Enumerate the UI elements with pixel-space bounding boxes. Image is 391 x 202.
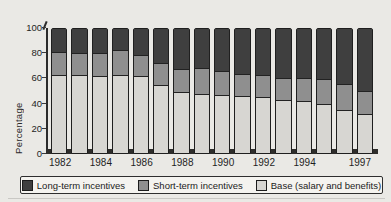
bar-1994-segment-1 — [297, 79, 311, 103]
x-tick-label-1991 — [238, 157, 249, 168]
x-tick-label-1996 — [334, 157, 345, 168]
bar-1984-segment-0 — [93, 77, 107, 153]
y-tick-label-100: 100 — [20, 23, 42, 33]
x-tick-label-1984: 1984 — [90, 157, 112, 168]
bar-1991-segment-0 — [235, 97, 249, 153]
x-tick-label-1995 — [320, 157, 331, 168]
x-tick-label-1983 — [75, 157, 86, 168]
bar-1986-segment-0 — [134, 77, 148, 153]
bar-1985-segment-2 — [113, 29, 127, 51]
bar-1982-segment-0 — [52, 76, 66, 153]
bar-1991 — [234, 28, 250, 154]
x-tick-label-1997: 1997 — [349, 157, 371, 168]
bar-1989 — [194, 28, 210, 154]
legend-label-long-term: Long-term incentives — [37, 180, 125, 191]
bar-1987-segment-1 — [154, 64, 168, 86]
x-tick-label-1982: 1982 — [49, 157, 71, 168]
bar-1988-segment-1 — [174, 70, 188, 94]
y-tick-label-20: 20 — [20, 124, 42, 134]
bar-1985 — [112, 28, 128, 154]
scan-artifact-line — [8, 198, 385, 199]
bar-1993-segment-1 — [276, 79, 290, 101]
bar-1990-segment-2 — [215, 29, 229, 72]
bar-1985-segment-0 — [113, 76, 127, 153]
bar-1984-segment-1 — [93, 54, 107, 78]
long-term-swatch-icon — [22, 180, 33, 191]
bar-1990-segment-0 — [215, 96, 229, 153]
bar-1997 — [357, 28, 373, 154]
bar-1994-segment-0 — [297, 102, 311, 153]
short-term-swatch-icon — [138, 180, 149, 191]
bar-1982-segment-1 — [52, 53, 66, 77]
bar-1995-segment-1 — [317, 80, 331, 105]
bar-1995 — [316, 28, 332, 154]
bar-1986 — [133, 28, 149, 154]
y-tick-mark-60 — [42, 77, 46, 78]
x-axis-tick-labels: 19821984198619881990199219941997 — [46, 157, 374, 168]
y-tick-mark-40 — [42, 103, 46, 104]
legend-item-base: Base (salary and benefits) — [256, 180, 381, 191]
bar-1997-segment-1 — [358, 92, 372, 114]
y-tick-label-80: 80 — [20, 48, 42, 58]
bar-1983 — [71, 28, 87, 154]
bar-1987 — [153, 28, 169, 154]
bar-1985-segment-1 — [113, 51, 127, 76]
bar-1989-segment-0 — [195, 95, 209, 153]
bar-1990-segment-1 — [215, 72, 229, 96]
bars-container — [48, 28, 376, 154]
x-tick-label-1988: 1988 — [171, 157, 193, 168]
y-tick-mark-0 — [42, 153, 46, 154]
bar-1988-segment-0 — [174, 93, 188, 153]
x-tick-label-1994: 1994 — [294, 157, 316, 168]
bar-1983-segment-1 — [72, 54, 86, 76]
bar-1997-segment-2 — [358, 29, 372, 92]
bar-1989-segment-1 — [195, 69, 209, 95]
bar-1986-segment-1 — [134, 56, 148, 77]
bar-1992-segment-2 — [256, 29, 270, 76]
bar-1987-segment-0 — [154, 86, 168, 153]
bar-1993-segment-2 — [276, 29, 290, 79]
legend-item-long-term: Long-term incentives — [22, 180, 125, 191]
y-tick-mark-100 — [42, 27, 46, 28]
bar-1996-segment-0 — [337, 111, 351, 153]
bar-1982-segment-2 — [52, 29, 66, 53]
x-tick-label-1992: 1992 — [253, 157, 275, 168]
bar-1988 — [173, 28, 189, 154]
bar-1988-segment-2 — [174, 29, 188, 70]
y-axis-tick-labels: 020406080100 — [20, 28, 42, 154]
bar-1991-segment-2 — [235, 29, 249, 75]
legend-item-short-term: Short-term incentives — [138, 180, 243, 191]
bar-1995-segment-0 — [317, 105, 331, 153]
bar-1993 — [275, 28, 291, 154]
bar-1994 — [296, 28, 312, 154]
scanned-stacked-bar-chart-figure: Percentage 020406080100 1982198419861988… — [0, 0, 391, 202]
bar-1989-segment-2 — [195, 29, 209, 69]
y-axis-3d-top — [42, 21, 47, 30]
bar-1982 — [51, 28, 67, 154]
x-tick-label-1986: 1986 — [131, 157, 153, 168]
x-tick-label-1990: 1990 — [212, 157, 234, 168]
y-tick-label-60: 60 — [20, 73, 42, 83]
bar-1992-segment-1 — [256, 76, 270, 98]
bar-1990 — [214, 28, 230, 154]
bar-1984 — [92, 28, 108, 154]
legend-label-base: Base (salary and benefits) — [271, 180, 381, 191]
bar-1983-segment-2 — [72, 29, 86, 54]
y-tick-mark-80 — [42, 52, 46, 53]
legend-label-short-term: Short-term incentives — [153, 180, 243, 191]
y-tick-label-40: 40 — [20, 99, 42, 109]
base-swatch-icon — [256, 180, 267, 191]
y-tick-mark-20 — [42, 128, 46, 129]
x-tick-label-1993 — [279, 157, 290, 168]
bar-1992 — [255, 28, 271, 154]
plot-area — [46, 28, 376, 154]
bar-1996 — [336, 28, 352, 154]
bar-1993-segment-0 — [276, 101, 290, 153]
bar-1983-segment-0 — [72, 76, 86, 153]
bar-1994-segment-2 — [297, 29, 311, 79]
bar-1997-segment-0 — [358, 115, 372, 153]
bar-1995-segment-2 — [317, 29, 331, 80]
bar-1992-segment-0 — [256, 98, 270, 153]
bar-1996-segment-1 — [337, 85, 351, 111]
bar-1984-segment-2 — [93, 29, 107, 54]
